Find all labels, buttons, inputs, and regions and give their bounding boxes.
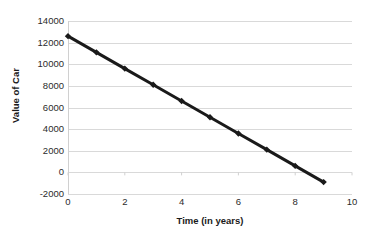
line-chart: 14000120001000080006000400020000-2000 02… [0,0,369,241]
data-series-layer [0,0,369,241]
series-line [68,36,324,182]
